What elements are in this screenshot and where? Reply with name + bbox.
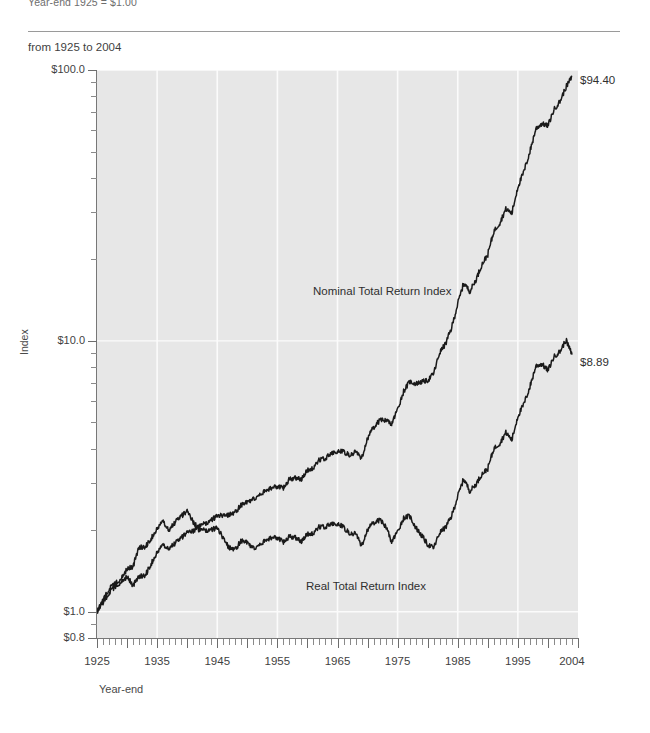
end-value-real: $8.89 bbox=[580, 356, 609, 368]
x-tick-minor bbox=[530, 639, 531, 645]
x-tick-minor bbox=[265, 639, 266, 645]
x-tick-minor bbox=[374, 639, 375, 645]
series-label-real: Real Total Return Index bbox=[306, 580, 426, 592]
x-axis-title: Year-end bbox=[99, 683, 143, 695]
x-tick-major bbox=[368, 639, 369, 648]
x-tick-minor bbox=[554, 639, 555, 645]
y-tick-minor bbox=[91, 212, 97, 213]
x-tick-minor bbox=[151, 639, 152, 645]
plot-canvas bbox=[97, 70, 578, 638]
y-tick-minor bbox=[91, 624, 97, 625]
x-tick-minor bbox=[169, 639, 170, 645]
x-tick-label: 1935 bbox=[144, 655, 170, 667]
x-tick-major bbox=[338, 639, 339, 648]
x-tick-minor bbox=[434, 639, 435, 645]
series-lines bbox=[97, 76, 572, 613]
x-tick-minor bbox=[500, 639, 501, 645]
y-tick-minor bbox=[91, 130, 97, 131]
x-tick-minor bbox=[416, 639, 417, 645]
x-tick-minor bbox=[181, 639, 182, 645]
x-tick-minor bbox=[440, 639, 441, 645]
y-tick-label: $0.8 bbox=[33, 631, 85, 643]
x-tick-minor bbox=[476, 639, 477, 645]
x-tick-minor bbox=[121, 639, 122, 645]
x-tick-minor bbox=[362, 639, 363, 645]
x-tick-label: 1965 bbox=[325, 655, 351, 667]
x-tick-major bbox=[458, 639, 459, 648]
y-tick-minor bbox=[91, 483, 97, 484]
x-tick-minor bbox=[271, 639, 272, 645]
y-tick-major bbox=[88, 638, 97, 639]
x-tick-label: 1995 bbox=[505, 655, 531, 667]
x-tick-minor bbox=[566, 639, 567, 645]
x-tick-minor bbox=[139, 639, 140, 645]
x-tick-minor bbox=[572, 639, 573, 645]
x-tick-minor bbox=[241, 639, 242, 645]
x-tick-major bbox=[518, 639, 519, 648]
x-tick-minor bbox=[542, 639, 543, 645]
x-tick-minor bbox=[301, 639, 302, 645]
x-tick-major bbox=[548, 639, 549, 648]
x-tick-minor bbox=[175, 639, 176, 645]
x-tick-major bbox=[428, 639, 429, 648]
y-tick-minor bbox=[91, 82, 97, 83]
y-tick-label: $1.0 bbox=[33, 605, 85, 617]
plot-area bbox=[97, 70, 578, 638]
x-tick-minor bbox=[211, 639, 212, 645]
y-tick-minor bbox=[91, 152, 97, 153]
x-tick-minor bbox=[422, 639, 423, 645]
series-line-nominal bbox=[97, 76, 572, 613]
x-tick-minor bbox=[506, 639, 507, 645]
x-tick-major bbox=[398, 639, 399, 648]
x-tick-minor bbox=[253, 639, 254, 645]
x-tick-major bbox=[97, 639, 98, 648]
x-tick-minor bbox=[325, 639, 326, 645]
x-tick-major bbox=[488, 639, 489, 648]
x-tick-label: 1925 bbox=[84, 655, 110, 667]
x-tick-minor bbox=[392, 639, 393, 645]
x-tick-minor bbox=[380, 639, 381, 645]
y-tick-minor bbox=[91, 530, 97, 531]
x-tick-minor bbox=[512, 639, 513, 645]
x-tick-minor bbox=[350, 639, 351, 645]
x-tick-major bbox=[578, 639, 579, 648]
y-tick-label: $10.0 bbox=[33, 334, 85, 346]
y-tick-minor bbox=[91, 422, 97, 423]
x-tick-label: 1985 bbox=[445, 655, 471, 667]
y-tick-minor bbox=[91, 96, 97, 97]
x-tick-minor bbox=[344, 639, 345, 645]
y-tick-major bbox=[88, 612, 97, 613]
x-tick-minor bbox=[386, 639, 387, 645]
series-label-nominal: Nominal Total Return Index bbox=[313, 285, 452, 297]
x-tick-minor bbox=[404, 639, 405, 645]
x-tick-minor bbox=[470, 639, 471, 645]
x-tick-minor bbox=[313, 639, 314, 645]
y-tick-minor bbox=[91, 367, 97, 368]
x-tick-minor bbox=[464, 639, 465, 645]
x-tick-minor bbox=[524, 639, 525, 645]
y-tick-minor bbox=[91, 112, 97, 113]
x-tick-label: 1955 bbox=[265, 655, 291, 667]
x-tick-major bbox=[277, 639, 278, 648]
x-tick-minor bbox=[410, 639, 411, 645]
x-tick-label: 1975 bbox=[385, 655, 411, 667]
x-tick-label: 2004 bbox=[559, 655, 585, 667]
x-tick-minor bbox=[103, 639, 104, 645]
x-tick-minor bbox=[235, 639, 236, 645]
x-tick-label: 1945 bbox=[204, 655, 230, 667]
x-tick-minor bbox=[356, 639, 357, 645]
x-tick-minor bbox=[319, 639, 320, 645]
y-tick-minor bbox=[91, 449, 97, 450]
x-tick-minor bbox=[199, 639, 200, 645]
x-tick-minor bbox=[133, 639, 134, 645]
x-tick-minor bbox=[109, 639, 110, 645]
y-axis-spine bbox=[96, 70, 97, 638]
x-tick-minor bbox=[193, 639, 194, 645]
x-tick-major bbox=[217, 639, 218, 648]
x-tick-minor bbox=[482, 639, 483, 645]
y-tick-minor bbox=[91, 353, 97, 354]
x-tick-minor bbox=[295, 639, 296, 645]
x-tick-minor bbox=[223, 639, 224, 645]
x-tick-minor bbox=[145, 639, 146, 645]
x-tick-minor bbox=[536, 639, 537, 645]
